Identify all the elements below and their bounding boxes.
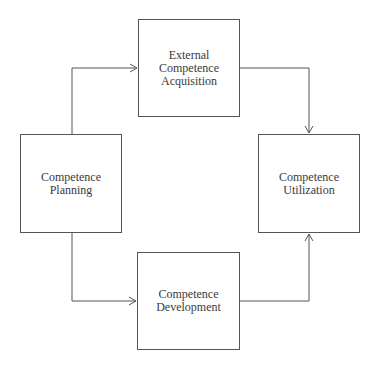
node-label-line: Development: [156, 301, 221, 314]
node-label-line: Competence: [41, 171, 101, 184]
edge-ext-to-util: [240, 68, 309, 133]
edge-plan-to-ext: [72, 68, 137, 134]
node-label-line: Utilization: [283, 184, 334, 197]
node-competence-utilization: Competence Utilization: [258, 134, 360, 233]
node-label-line: Acquisition: [161, 75, 217, 88]
node-competence-planning: Competence Planning: [20, 134, 122, 233]
node-competence-development: Competence Development: [137, 252, 240, 350]
node-label-line: Planning: [50, 184, 93, 197]
node-external-competence-acquisition: External Competence Acquisition: [138, 19, 240, 117]
node-label-line: Competence: [279, 171, 339, 184]
edge-dev-to-util: [240, 234, 309, 301]
edge-plan-to-dev: [72, 233, 136, 301]
node-label-line: External Competence: [139, 49, 239, 75]
